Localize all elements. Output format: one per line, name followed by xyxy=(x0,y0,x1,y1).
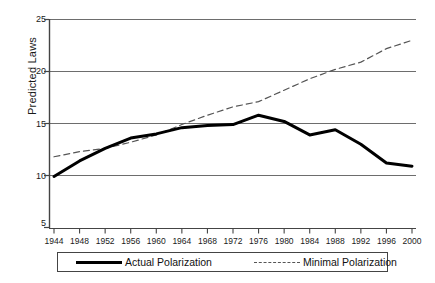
series-line-minimal-polarization xyxy=(54,40,412,156)
gridlines xyxy=(49,20,416,176)
chart-legend: Actual Polarization Minimal Polarization xyxy=(57,252,388,272)
x-axis-ticks xyxy=(54,229,412,234)
dashed-line-icon xyxy=(254,262,300,263)
y-axis-ticks xyxy=(44,20,49,228)
legend-item-actual-polarization: Actual Polarization xyxy=(76,253,212,271)
series-line-actual-polarization xyxy=(54,115,412,176)
legend-label: Minimal Polarization xyxy=(303,256,397,268)
legend-item-minimal-polarization: Minimal Polarization xyxy=(254,253,397,271)
x-tick-label: 2000 xyxy=(395,236,429,246)
solid-line-icon xyxy=(76,261,122,264)
legend-label: Actual Polarization xyxy=(125,256,212,268)
chart-figure: Predicted Laws 25 20 15 10 5 19441948195… xyxy=(0,0,435,283)
